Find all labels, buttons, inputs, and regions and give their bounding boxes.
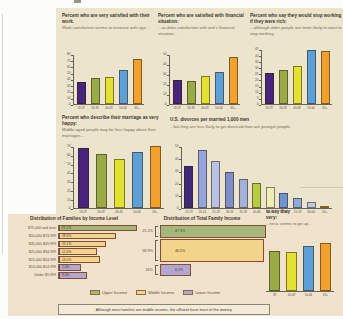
bar-plot-area: 0102030405060708018-2930-3940-4950-6465+ [62,54,144,110]
plot [266,241,334,292]
x-tick-label: 50-64 [300,292,317,297]
x-tick-label: 30-39 [88,105,102,110]
bar-cell [266,251,283,291]
bar-cell [130,59,144,104]
income-bar: 18.3% [59,233,116,240]
y-axis: 01020304050607080 [62,55,74,105]
bar-30-39 [91,78,100,104]
income-bar-value: 25.1% [60,226,71,230]
income-share-bar: 6.2% [160,264,191,276]
legend-item: Middle Income [136,290,174,295]
income-share-bar: 47.3% [160,225,266,238]
bar-18-29 [77,82,86,105]
income-bar: 9.0% [59,272,87,279]
x-tick-label: 30-39 [276,105,290,110]
y-tick-label: 30 [255,67,259,70]
plot [262,49,332,105]
y-tick-label: 80 [67,53,71,56]
bar-chart [266,241,334,292]
y-tick-label: 0 [69,103,71,106]
bar-65+ [133,59,142,104]
y-axis: 010203040506070 [62,147,74,209]
chart-title: Percent who are very satisfied with thei… [62,13,156,24]
plot [182,146,332,209]
bar-60-64 [307,202,316,208]
y-tick-label: 20 [163,83,167,86]
legend-swatch [90,290,100,295]
bar-chart: 01020304050607080 [62,54,144,105]
x-axis-labels: 18-2930-3940-4950-6465+ [74,105,144,110]
chart-subtitle: Middle-aged people may be less happy abo… [62,127,168,138]
x-tick-label: 40-44 [250,209,264,214]
bar-zone: 12.3% [58,248,138,255]
x-tick-label: 18-29 [170,105,184,110]
bar-cell [291,198,305,208]
bar-cell [276,70,290,104]
y-tick-label: 30 [67,181,71,184]
y-tick-label: 30 [67,85,71,88]
x-tick-label: 30-39 [92,209,110,214]
bar-50-64 [303,246,314,291]
bar-40-49 [293,66,302,104]
bar-chart: 01020304050 [170,146,332,209]
bar-cell [209,161,223,208]
x-tick-label: 25-29 [209,209,223,214]
chart-us-divorces: U.S. divorces per married 1,000 men ...b… [170,117,342,214]
bar-plot-area: 0102030405015-1920-2425-2930-3435-3940-4… [170,146,332,214]
bar-zone: 13.2% [58,256,138,263]
y-axis: 01020304050 [158,55,170,105]
chart-stop-working: Percent who say they would stop working … [250,13,342,110]
textbook-figure-page: Percent who are very satisfied with thei… [0,0,343,319]
y-tick-label: 30 [163,73,167,76]
x-tick-label: 30-39 [184,105,198,110]
y-tick-label: 0 [177,207,179,210]
x-axis-labels: 3940-4950-6465+ [266,292,334,297]
bar-cell [223,172,237,208]
bar-cell [304,202,318,208]
bar-40-49 [201,76,210,104]
y-tick-label: 35 [255,61,259,64]
bar-cell [264,187,278,208]
y-axis: 051015202530354045 [250,50,262,105]
bar-cell [110,159,128,208]
x-tick-label: 50-64 [304,105,318,110]
y-tick-label: 40 [175,158,179,161]
stacked-plot-area: 25.1%47.3%58.9%46.5%16%6.2% [138,225,266,276]
bar-65+ [321,51,330,104]
bar-65+ [150,146,161,208]
y-tick-label: 10 [255,91,259,94]
x-tick-label: 40-49 [110,209,128,214]
family-share-label: 16% [138,264,155,276]
x-tick-label: 50-64 [116,105,130,110]
y-tick-label: 20 [255,79,259,82]
legend-swatch [183,290,193,295]
bar-cell [212,72,226,104]
income-row: Under $9,9999.0% [10,272,138,279]
bar-cell [116,70,130,104]
bar-zone: 46.5% [160,239,266,262]
bar-45-49 [266,187,275,208]
bar-cell [283,252,300,291]
bar-50-64 [132,152,143,208]
bar-cell [74,148,92,208]
y-tick-label: 20 [67,190,71,193]
legend-item: Lower Income [183,290,220,295]
family-share-label: 25.1% [138,225,155,238]
income-bar: 7.0% [59,264,81,271]
bar-40-49 [114,159,125,208]
income-row: $10,000-$14,9997.0% [10,264,138,271]
bar-zone: 6.2% [160,264,266,276]
y-tick-label: 50 [67,72,71,75]
y-tick-label: 10 [175,195,179,198]
x-tick-label: 50-64 [128,209,146,214]
y-tick-label: 70 [67,145,71,148]
bar-50-64 [215,72,224,104]
family-share-label: 58.9% [138,239,155,262]
income-share-value: 47.3% [175,229,185,233]
y-tick-label: 40 [163,63,167,66]
bar-cell [318,51,332,104]
x-tick-label: 18-29 [74,209,92,214]
bar-plot-area: 0102030405018-2930-3940-4950-6465+ [158,54,240,110]
x-axis-labels: 18-2930-3940-4950-6465+ [74,209,164,214]
y-tick-label: 0 [165,103,167,106]
